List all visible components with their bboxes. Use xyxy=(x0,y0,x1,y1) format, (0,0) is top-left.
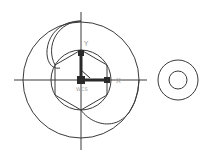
ucs-icon: Y X WCS xyxy=(76,40,121,92)
ucs-y-label: Y xyxy=(83,40,89,48)
drawing-svg: Y X WCS xyxy=(0,0,217,157)
ucs-origin-label: WCS xyxy=(76,86,88,92)
right-outer-circle[interactable] xyxy=(158,60,198,100)
drawing-canvas[interactable]: Y X WCS xyxy=(0,0,217,157)
ucs-x-label: X xyxy=(116,77,121,85)
right-inner-circle[interactable] xyxy=(169,71,187,89)
